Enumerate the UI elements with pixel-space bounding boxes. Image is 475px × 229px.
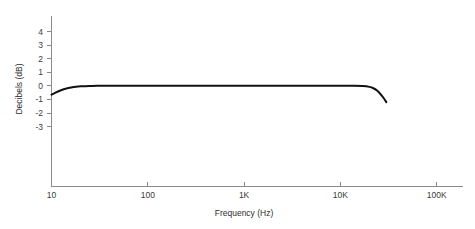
x-tick-label-1: 100: [141, 190, 155, 200]
frequency-response-chart: 4 3 2 1 0 -1 -2 -3 10 100 1K 10K 100K Fr…: [0, 0, 475, 229]
response-curve: [52, 86, 387, 102]
x-axis-tick-labels: 10 100 1K 10K 100K: [47, 190, 447, 200]
x-tick-label-3: 10K: [333, 190, 348, 200]
y-tick-label-2: 2: [38, 54, 43, 64]
x-tick-label-4: 100K: [427, 190, 447, 200]
y-tick-label-1: 3: [38, 40, 43, 50]
chart-canvas: 4 3 2 1 0 -1 -2 -3 10 100 1K 10K 100K Fr…: [0, 0, 475, 229]
y-tick-label-3: 1: [38, 67, 43, 77]
y-axis-title: Decibels (dB): [14, 63, 24, 114]
y-tick-label-6: -2: [35, 108, 43, 118]
y-axis-tick-labels: 4 3 2 1 0 -1 -2 -3: [35, 27, 43, 132]
y-tick-label-7: -3: [35, 122, 43, 132]
x-axis-title: Frequency (Hz): [215, 208, 274, 218]
x-tick-label-0: 10: [47, 190, 57, 200]
y-tick-label-0: 4: [38, 27, 43, 37]
x-tick-label-2: 1K: [239, 190, 250, 200]
y-tick-label-5: -1: [35, 94, 43, 104]
y-tick-label-4: 0: [38, 81, 43, 91]
